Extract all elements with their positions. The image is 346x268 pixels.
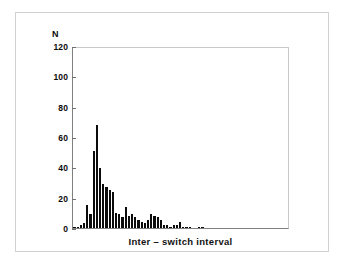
- histogram-bar: [128, 216, 130, 228]
- histogram-bar: [112, 192, 114, 228]
- histogram-bar: [189, 227, 191, 229]
- y-tick-label: 100: [42, 73, 68, 81]
- y-tick-mark: [72, 138, 76, 139]
- histogram-bar: [77, 227, 79, 229]
- histogram-bar: [179, 222, 181, 228]
- histogram-bar: [118, 214, 120, 228]
- histogram-bar: [83, 223, 85, 228]
- histogram-bar: [157, 217, 159, 228]
- y-tick-mark: [72, 168, 76, 169]
- histogram-bar: [150, 214, 152, 228]
- histogram-bar: [185, 227, 187, 229]
- y-axis-tick-labels: 020406080100120: [40, 0, 68, 268]
- histogram-bar: [173, 225, 175, 228]
- histogram-bar: [163, 225, 165, 228]
- histogram-bar: [144, 223, 146, 228]
- y-tick-mark: [72, 108, 76, 109]
- histogram-bar: [80, 225, 82, 228]
- histogram-bar: [121, 217, 123, 228]
- histogram-bar: [153, 216, 155, 228]
- histogram-bar: [166, 225, 168, 228]
- y-tick-label: 20: [42, 195, 68, 203]
- histogram-bar: [160, 220, 162, 228]
- histogram-bar: [147, 220, 149, 228]
- histogram-bars: [73, 47, 288, 228]
- histogram-bar: [131, 214, 133, 228]
- y-tick-label: 0: [42, 225, 68, 233]
- y-tick-mark: [72, 47, 76, 48]
- histogram-bar: [176, 225, 178, 228]
- histogram-bar: [93, 151, 95, 228]
- histogram-bar: [96, 125, 98, 228]
- histogram-bar: [201, 227, 203, 229]
- y-tick-label: 120: [42, 43, 68, 51]
- histogram-bar: [169, 227, 171, 229]
- histogram-bar: [115, 213, 117, 228]
- y-tick-mark: [72, 199, 76, 200]
- histogram-bar: [109, 190, 111, 228]
- histogram-bar: [102, 184, 104, 228]
- y-tick-label: 80: [42, 104, 68, 112]
- x-axis-title: Inter – switch interval: [72, 236, 289, 247]
- y-tick-label: 60: [42, 134, 68, 142]
- figure-canvas: N 020406080100120 Inter – switch interva…: [0, 0, 346, 268]
- histogram-bar: [198, 227, 200, 229]
- y-tick-label: 40: [42, 164, 68, 172]
- histogram-bar: [134, 217, 136, 228]
- histogram-bar: [182, 227, 184, 229]
- y-tick-mark: [72, 77, 76, 78]
- histogram-bar: [125, 207, 127, 228]
- histogram-bar: [89, 214, 91, 228]
- histogram-bar: [137, 220, 139, 228]
- histogram-bar: [105, 187, 107, 228]
- histogram-bar: [86, 205, 88, 228]
- y-tick-mark: [72, 229, 76, 230]
- histogram-bar: [99, 168, 101, 228]
- histogram-bar: [141, 222, 143, 228]
- histogram-bar: [73, 227, 75, 229]
